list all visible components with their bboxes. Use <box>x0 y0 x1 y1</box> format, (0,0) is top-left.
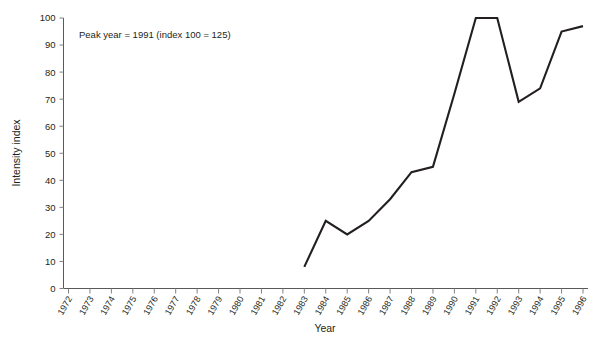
y-tick-label: 30 <box>45 202 56 213</box>
y-tick-label: 100 <box>40 12 56 23</box>
y-tick-label: 60 <box>45 121 56 132</box>
y-axis-title: Intensity index <box>10 119 22 187</box>
y-tick-label: 10 <box>45 256 56 267</box>
y-tick-label: 40 <box>45 175 56 186</box>
y-tick-label: 50 <box>45 148 56 159</box>
y-tick-label: 0 <box>50 283 55 294</box>
x-axis-title: Year <box>314 322 336 334</box>
y-tick-label: 20 <box>45 229 56 240</box>
chart-container: 0102030405060708090100 19721973197419751… <box>0 0 599 342</box>
y-tick-label: 80 <box>45 67 56 78</box>
y-tick-label: 90 <box>45 39 56 50</box>
line-chart: 0102030405060708090100 19721973197419751… <box>0 0 599 342</box>
y-tick-label: 70 <box>45 94 56 105</box>
peak-year-annotation: Peak year = 1991 (index 100 = 125) <box>79 29 231 40</box>
